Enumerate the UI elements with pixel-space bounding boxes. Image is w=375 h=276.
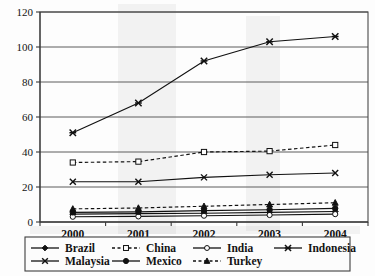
y-tick-label-40: 40 [22, 146, 34, 158]
series-mexico-2004-marker-circle [333, 206, 338, 211]
legend-label-mexico: Mexico [146, 255, 182, 267]
legend-mexico-marker-circle [123, 258, 128, 263]
legend-china-marker-square [124, 246, 129, 251]
series-indonesia [69, 33, 338, 136]
series-indonesia-2004-marker-star [332, 33, 339, 39]
series-malaysia [70, 170, 338, 185]
y-tick-label-120: 120 [17, 6, 34, 18]
y-axis: 020406080100120 [17, 6, 41, 228]
series-china-2004-marker-square [333, 142, 338, 147]
series-china-2002-marker-square [201, 149, 206, 154]
legend-label-malaysia: Malaysia [65, 255, 110, 268]
series-indonesia-2002-marker-star [201, 58, 208, 64]
series-group [69, 33, 338, 219]
series-mexico-2003-marker-circle [267, 207, 272, 212]
series-indonesia-2001-marker-star [135, 100, 142, 106]
series-line-indonesia [73, 37, 335, 133]
y-tick-label-80: 80 [22, 76, 34, 88]
legend-label-india: India [227, 242, 253, 254]
series-china-2003-marker-square [267, 149, 272, 154]
y-tick-label-100: 100 [17, 41, 34, 53]
series-china-2001-marker-square [136, 159, 141, 164]
y-tick-label-0: 0 [28, 216, 34, 228]
series-indonesia-2003-marker-star [266, 39, 273, 45]
series-china [70, 142, 338, 165]
series-india-2003-marker-circle-open [267, 212, 272, 217]
legend-label-turkey: Turkey [227, 255, 263, 268]
chart-canvas: 02040608010012020002001200220032004Brazi… [0, 0, 375, 276]
y-tick-label-20: 20 [22, 181, 34, 193]
gridlines-group [40, 12, 368, 222]
series-india-2004-marker-circle-open [333, 212, 338, 217]
series-india-2002-marker-circle-open [201, 213, 206, 218]
line-chart: 02040608010012020002001200220032004Brazi… [0, 0, 375, 276]
y-tick-label-60: 60 [22, 111, 34, 123]
series-china-2000-marker-square [70, 160, 75, 165]
series-indonesia-2000-marker-star [69, 130, 76, 136]
legend: BrazilChinaIndiaIndonesiaMalaysiaMexicoT… [25, 237, 356, 271]
legend-india-marker-circle-open [205, 246, 210, 251]
legend-label-china: China [146, 242, 176, 254]
legend-label-brazil: Brazil [65, 242, 95, 254]
legend-label-indonesia: Indonesia [308, 242, 356, 254]
